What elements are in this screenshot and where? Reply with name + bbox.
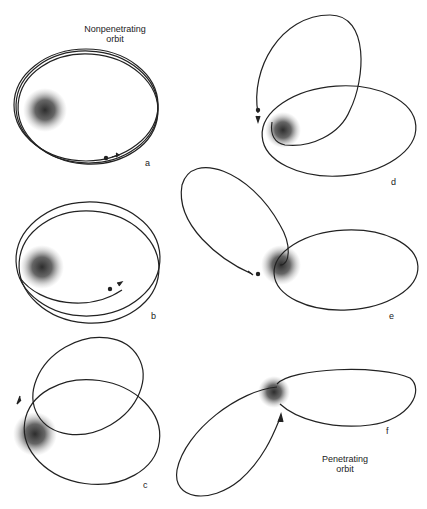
penetrating-label-line1: Penetrating	[300, 454, 390, 464]
panel-b	[14, 200, 163, 328]
panel-letter-f: f	[386, 426, 389, 436]
panel-letter-b: b	[151, 311, 156, 321]
nonpenetrating-label-line1: Nonpenetrating	[60, 24, 170, 34]
orbit-diagram	[0, 0, 427, 509]
core-b	[20, 245, 64, 289]
panel-letter-c: c	[143, 480, 148, 490]
core-f	[258, 376, 290, 408]
panel-c	[13, 318, 167, 493]
panel-f	[177, 369, 416, 496]
panel-e	[181, 168, 420, 314]
panel-a	[14, 49, 162, 169]
panel-letter-a: a	[145, 158, 150, 168]
core-c	[13, 412, 57, 456]
nonpenetrating-label-line2: orbit	[60, 34, 170, 44]
panel-letter-d: d	[391, 177, 396, 187]
penetrating-label-line2: orbit	[300, 464, 390, 474]
panel-d	[256, 15, 419, 181]
panel-letter-e: e	[389, 311, 394, 321]
nonpenetrating-orbit-label: Nonpenetrating orbit	[60, 24, 170, 44]
core-a	[23, 88, 67, 132]
core-d	[265, 112, 301, 148]
penetrating-orbit-label: Penetrating orbit	[300, 454, 390, 474]
